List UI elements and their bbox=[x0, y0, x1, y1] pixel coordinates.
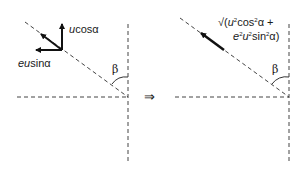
cos-text: cos bbox=[237, 16, 254, 28]
angle-arc bbox=[272, 77, 289, 84]
sqrt-symbol: √( bbox=[218, 16, 228, 28]
label-eusin-rest: sinα bbox=[30, 57, 50, 69]
alpha-close: α) bbox=[269, 30, 279, 42]
angle-beta-right: β bbox=[272, 64, 278, 76]
label-eusin: eusinα bbox=[18, 57, 51, 69]
magnitude-label-line1: √(u2cos2α + bbox=[218, 14, 273, 28]
sin-text: sin bbox=[252, 30, 266, 42]
resultant-arrow bbox=[201, 33, 224, 50]
alpha-plus: α + bbox=[258, 16, 274, 28]
label-ucos: ucosα bbox=[69, 23, 99, 35]
angle-arc bbox=[112, 77, 128, 84]
label-ucos-rest: cosα bbox=[75, 23, 98, 35]
angle-beta-left: β bbox=[112, 64, 118, 76]
label-eusin-var: eu bbox=[18, 57, 30, 69]
resultant-arrow bbox=[41, 34, 62, 50]
implies-arrow-icon: ⇒ bbox=[144, 91, 155, 103]
magnitude-label-line2: e2u2sin2α) bbox=[233, 28, 279, 42]
left-panel bbox=[17, 22, 128, 162]
